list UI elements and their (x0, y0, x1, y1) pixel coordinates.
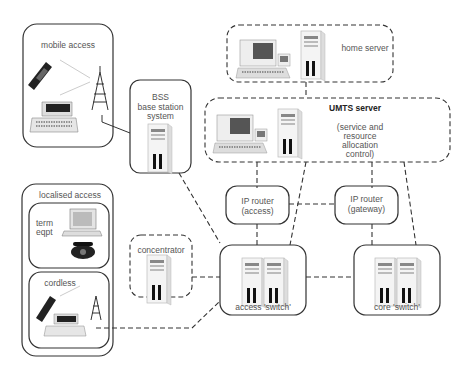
access-switch-server-icon-2 (264, 258, 288, 308)
umts-server-desc-4: control) (325, 149, 395, 159)
home-server-label: home server (340, 43, 390, 53)
cordless-laptop-icon (44, 314, 86, 336)
laptop-icon (30, 102, 78, 132)
access-switch-label: access 'switch' (220, 302, 306, 312)
umts-desktop-icon (213, 115, 267, 153)
core-switch-server-icon-2 (397, 258, 421, 308)
bss-server-icon (148, 124, 172, 174)
umts-server-icon (278, 109, 302, 159)
network-diagram (0, 0, 460, 372)
cordless-label: cordless (40, 278, 80, 288)
antenna-tower-icon (92, 66, 108, 110)
umts-server-title: UMTS server (315, 103, 395, 113)
bss-title: BSS (130, 92, 191, 102)
concentrator-server-icon (147, 255, 171, 305)
terminal-icon (62, 209, 102, 236)
edge-umts-core-switch (404, 162, 416, 245)
edge-cordless-access (96, 301, 220, 328)
core-switch-server-icon-1 (375, 258, 399, 308)
localised-access-label: localised access (32, 190, 108, 200)
desk-phone-icon (71, 242, 95, 259)
ip-router-access-label-2: (access) (226, 206, 289, 216)
bss-subtitle-2: system (130, 111, 191, 121)
ip-router-gateway-label-1: IP router (335, 194, 398, 204)
concentrator-label: concentrator (130, 245, 192, 255)
edge-antenna-bss (102, 115, 130, 133)
cordless-antenna-icon (91, 296, 101, 320)
cordless-phone-icon (36, 296, 56, 322)
core-switch-label: core 'switch' (354, 302, 440, 312)
home-server-icon (301, 31, 325, 81)
mobile-access-label: mobile access (40, 40, 96, 50)
mobile-phone-icon (28, 62, 52, 90)
ip-router-gateway-label-2: (gateway) (335, 204, 398, 214)
radio-waves-icon (60, 60, 90, 95)
ip-router-access-label-1: IP router (226, 196, 289, 206)
home-desktop-icon (236, 40, 290, 78)
access-switch-server-icon-1 (242, 258, 266, 308)
edge-bss-access-switch (179, 173, 220, 243)
term-eqpt-label-2: eqpt (36, 227, 60, 237)
